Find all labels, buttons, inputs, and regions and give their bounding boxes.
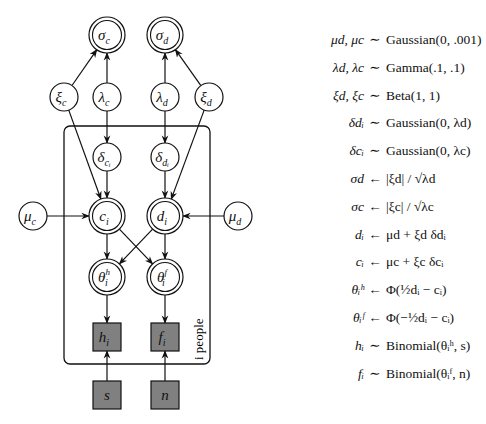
equation-rhs: Gamma(.1, .1)	[386, 58, 465, 78]
equation-row: δcᵢ∼Gaussian(0, λc)	[300, 141, 486, 161]
equation-operator: ←	[368, 308, 382, 328]
equation-rhs: |ξd| / √λd	[386, 169, 435, 189]
node-xi_d: ξd	[195, 83, 223, 111]
node-delta_d: δdᵢ	[151, 143, 179, 171]
equation-lhs: cᵢ	[356, 252, 364, 272]
equation-lhs: dᵢ	[355, 225, 364, 245]
node-theta_f: θfi	[147, 259, 183, 295]
equation-lhs: fᵢ	[358, 364, 364, 384]
equation-lhs: μd, μc	[331, 30, 364, 50]
equation-operator: ∼	[368, 141, 382, 161]
equation-lhs: σd	[351, 169, 364, 189]
edge-xi_c-to-sigma_c	[72, 50, 97, 86]
plate-label: i people	[191, 318, 206, 360]
equation-row: hᵢ∼Binomial(θᵢʰ, s)	[300, 336, 486, 356]
equation-lhs: δdᵢ	[349, 113, 364, 133]
equation-operator: ∼	[368, 58, 382, 78]
equation-row: σc←|ξc| / √λc	[300, 197, 486, 217]
equation-rhs: |ξc| / √λc	[386, 197, 434, 217]
equation-rhs: Beta(1, 1)	[386, 86, 440, 106]
equation-row: dᵢ←μd + ξd δdᵢ	[300, 225, 486, 245]
equation-row: θᵢᶠ←Φ(−½dᵢ − cᵢ)	[300, 308, 486, 328]
equation-operator: ∼	[368, 86, 382, 106]
graphical-model: i people σcσdξcλcλdξdδcᵢδdᵢμccidiμdθhiθf…	[0, 0, 290, 424]
equation-lhs: θᵢʰ	[351, 280, 364, 300]
equation-operator: ∼	[368, 113, 382, 133]
equation-operator: ∼	[368, 336, 382, 356]
node-lambda_d: λd	[151, 83, 179, 111]
node-theta_h: θhi	[89, 259, 125, 295]
node-c_i: ci	[89, 198, 125, 234]
equation-lhs: λd, λc	[333, 58, 364, 78]
equation-lhs: θᵢᶠ	[353, 308, 364, 328]
equation-operator: ←	[368, 169, 382, 189]
node-d_i: di	[147, 198, 183, 234]
equation-row: λd, λc∼Gamma(.1, .1)	[300, 58, 486, 78]
node-label: n	[161, 387, 169, 403]
equation-rhs: Gaussian(0, λd)	[386, 113, 471, 133]
equation-operator: ∼	[368, 364, 382, 384]
node-mu_d: μd	[224, 202, 252, 230]
equation-row: cᵢ←μc + ξc δcᵢ	[300, 252, 486, 272]
node-n: n	[151, 381, 179, 409]
equation-row: μd, μc∼Gaussian(0, .001)	[300, 30, 486, 50]
node-mu_c: μc	[19, 202, 47, 230]
node-xi_c: ξc	[50, 83, 78, 111]
node-lambda_c: λc	[93, 83, 121, 111]
equation-lhs: σc	[351, 197, 364, 217]
equation-operator: ←	[368, 197, 382, 217]
equation-rhs: Binomial(θᵢᶠ, n)	[386, 364, 470, 384]
node-delta_c: δcᵢ	[93, 143, 121, 171]
equation-rhs: Gaussian(0, λc)	[386, 141, 471, 161]
equation-rhs: μd + ξd δdᵢ	[386, 225, 446, 245]
equation-row: δdᵢ∼Gaussian(0, λd)	[300, 113, 486, 133]
equation-rhs: Gaussian(0, .001)	[386, 30, 482, 50]
equation-row: σd←|ξd| / √λd	[300, 169, 486, 189]
equation-row: θᵢʰ←Φ(½dᵢ − cᵢ)	[300, 280, 486, 300]
equation-rhs: Φ(½dᵢ − cᵢ)	[386, 280, 447, 300]
nodes: σcσdξcλcλdξdδcᵢδdᵢμccidiμdθhiθfihifisn	[19, 17, 252, 409]
equation-rhs: μc + ξc δcᵢ	[386, 252, 444, 272]
node-label: s	[104, 387, 110, 403]
equation-rhs: Φ(−½dᵢ − cᵢ)	[386, 308, 454, 328]
node-s: s	[93, 381, 121, 409]
equation-row: fᵢ∼Binomial(θᵢᶠ, n)	[300, 364, 486, 384]
edge-xi_d-to-sigma_d	[175, 50, 200, 86]
equation-lhs: δcᵢ	[350, 141, 364, 161]
equation-lhs: hᵢ	[355, 336, 364, 356]
equation-lhs: ξd, ξc	[333, 86, 364, 106]
equation-operator: ∼	[368, 30, 382, 50]
equation-operator: ←	[368, 252, 382, 272]
node-f_i: fi	[151, 323, 179, 351]
equation-operator: ←	[368, 280, 382, 300]
equation-row: ξd, ξc∼Beta(1, 1)	[300, 86, 486, 106]
node-sigma_d: σd	[147, 17, 183, 53]
equation-operator: ←	[368, 225, 382, 245]
node-sigma_c: σc	[89, 17, 125, 53]
equation-rhs: Binomial(θᵢʰ, s)	[386, 336, 470, 356]
node-h_i: hi	[93, 323, 121, 351]
